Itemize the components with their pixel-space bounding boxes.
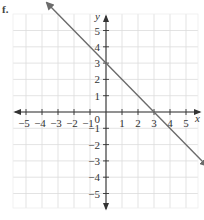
x-tick-label: 5 [183,117,189,129]
origin-label: 0 [95,113,101,125]
y-tick-label: 4 [95,41,101,53]
y-tick-label: 2 [95,73,101,85]
y-tick-label: 3 [95,57,101,69]
x-tick-label: 2 [135,117,141,129]
y-tick-label: −4 [88,171,100,183]
x-tick-label: −4 [34,117,46,129]
x-tick-label: −3 [50,117,62,129]
x-tick-label: −2 [66,117,78,129]
coordinate-plane: −5−4−3−2−11234554321−1−2−3−4−50xy [0,0,204,220]
x-tick-label: 3 [151,117,157,129]
x-tick-label: −5 [18,117,30,129]
y-tick-label: −2 [88,139,100,151]
y-tick-label: 1 [95,90,101,102]
y-tick-label: −3 [88,155,100,167]
x-axis-label: x [194,112,200,124]
y-tick-label: −5 [88,188,100,200]
y-axis-label: y [94,10,100,22]
line-series [47,3,204,166]
x-tick-label: 1 [119,117,125,129]
y-tick-label: 5 [95,25,101,37]
